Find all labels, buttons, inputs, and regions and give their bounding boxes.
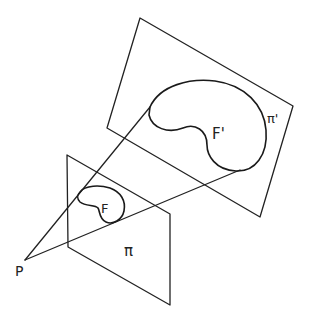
label-f: F [101, 201, 108, 216]
label-pi: π [124, 242, 133, 260]
figure-f-prime [149, 80, 266, 171]
label-pi-prime: π' [267, 111, 278, 126]
label-p: P [15, 263, 23, 279]
projection-ray-upper [25, 107, 150, 260]
plane-pi [67, 155, 170, 305]
projection-diagram: F' π' F π P [0, 0, 310, 322]
label-f-prime: F' [212, 125, 225, 143]
